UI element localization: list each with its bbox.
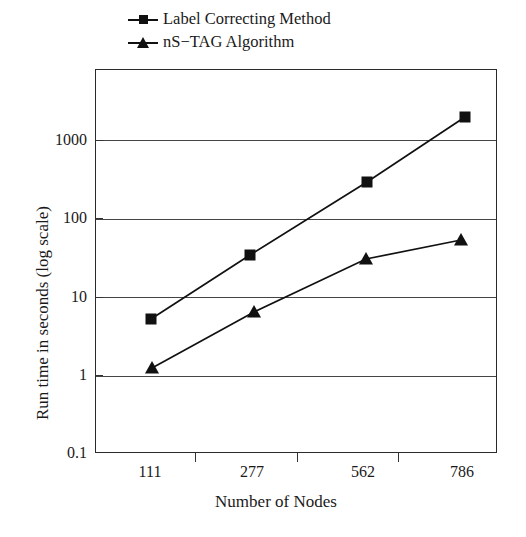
x-axis-tick-label: 562 [328, 464, 398, 480]
y-axis-title: Run time in seconds (log scale) [33, 206, 53, 420]
x-axis-tick [398, 453, 399, 462]
data-point-marker [145, 361, 159, 374]
series-line-label-correcting-method [151, 117, 465, 319]
y-axis-tick [95, 297, 103, 298]
chart-figure: Label Correcting Method nS−TAG Algorithm [0, 0, 526, 537]
y-axis-tick-label: 1000 [27, 132, 87, 148]
data-point-marker [460, 112, 471, 123]
y-axis-tick [95, 218, 103, 219]
x-axis-tick-label: 277 [217, 464, 287, 480]
data-point-marker [146, 314, 157, 325]
x-axis-tick [297, 453, 298, 462]
x-axis-title: Number of Nodes [13, 492, 526, 512]
y-axis-tick [95, 140, 103, 141]
x-axis-tick [195, 453, 196, 462]
x-axis-tick-label: 786 [427, 464, 497, 480]
y-axis-tick [95, 375, 103, 376]
data-point-marker [362, 177, 373, 188]
data-point-marker [247, 305, 261, 318]
x-axis-tick-label: 111 [115, 464, 185, 480]
data-point-marker [245, 250, 256, 261]
y-axis-tick-label: 0.1 [27, 445, 87, 461]
series-line-ns-tag-algorithm [152, 240, 461, 368]
data-point-marker [454, 233, 468, 246]
